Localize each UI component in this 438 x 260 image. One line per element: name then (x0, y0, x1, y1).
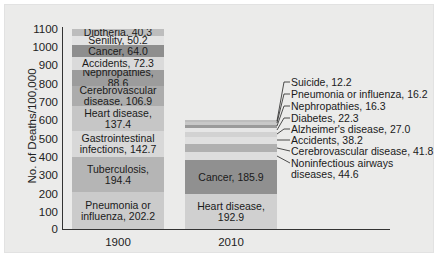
label-suicide: Suicide, 12.2 (291, 77, 352, 88)
label-cerebrovascular: Cerebrovascular disease, 41.8 (291, 146, 433, 157)
label-pneumonia: Pneumonia or influenza, 16.2 (291, 89, 428, 100)
label-nephropathies: Nephropathies, 16.3 (291, 101, 386, 112)
label-airways-2: diseases, 44.6 (291, 169, 359, 180)
